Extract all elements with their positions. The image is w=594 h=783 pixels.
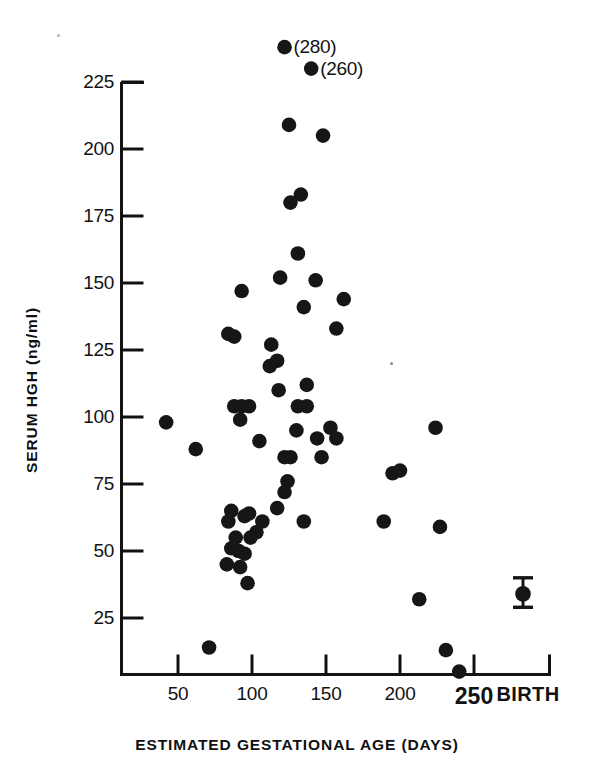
data-point: [221, 514, 236, 529]
x-tick-label-50: 50: [168, 683, 189, 705]
data-point: [227, 329, 242, 344]
y-tick-label-50: 50: [60, 540, 114, 562]
data-point: [433, 520, 448, 535]
data-point: [310, 431, 325, 446]
x-tick-label-100: 100: [237, 683, 268, 705]
data-point: [233, 412, 248, 427]
y-tick-label-25: 25: [60, 607, 114, 629]
data-point: [336, 292, 351, 307]
data-point: [202, 640, 217, 655]
y-tick-label-150: 150: [60, 272, 114, 294]
plot-canvas: [0, 0, 594, 783]
data-point: [329, 431, 344, 446]
data-point: [240, 576, 255, 591]
data-point: [297, 300, 312, 315]
data-point: [316, 128, 331, 143]
data-point-markers: [159, 40, 467, 679]
data-point: [283, 195, 298, 210]
y-tick-label-125: 125: [60, 339, 114, 361]
scan-speck: [57, 34, 60, 37]
data-point: [159, 415, 174, 430]
data-point: [299, 399, 314, 414]
data-point: [233, 560, 248, 575]
x-tick-label-birth: BIRTH: [496, 683, 559, 706]
y-tick-label-200: 200: [60, 138, 114, 160]
data-point: [291, 246, 306, 261]
axis-lines: [120, 82, 551, 676]
data-point: [220, 557, 235, 572]
x-axis-ticks: [178, 655, 550, 675]
scatter-plot-figure: 255075100125150175200225 50100150200250B…: [0, 0, 594, 783]
data-point: [234, 284, 249, 299]
data-point: [277, 40, 292, 55]
data-point: [376, 514, 391, 529]
data-point: [308, 273, 323, 288]
data-point: [452, 664, 467, 679]
data-point: [282, 118, 297, 133]
data-point: [264, 337, 279, 352]
data-point: [283, 450, 298, 465]
data-point: [273, 270, 288, 285]
data-point: [242, 506, 257, 521]
y-tick-label-175: 175: [60, 205, 114, 227]
data-point: [299, 378, 314, 393]
birth-error-bar: [513, 578, 533, 607]
data-point: [393, 463, 408, 478]
x-tick-label-200: 200: [385, 683, 416, 705]
x-tick-label-250: 250: [455, 683, 493, 710]
point-annotation-280: (280): [294, 36, 337, 58]
data-point: [270, 353, 285, 368]
data-point: [242, 399, 257, 414]
point-annotation-260: (260): [320, 58, 363, 80]
data-point: [412, 592, 427, 607]
data-point: [237, 546, 252, 561]
data-point: [271, 383, 286, 398]
y-tick-label-75: 75: [60, 473, 114, 495]
scan-speck: [390, 362, 393, 365]
data-point: [289, 423, 304, 438]
data-point: [188, 442, 203, 457]
data-point: [277, 485, 292, 500]
data-point: [314, 450, 329, 465]
data-point: [329, 321, 344, 336]
error-bar-mean-point: [515, 586, 531, 602]
y-axis-ticks: [122, 82, 144, 618]
data-point: [243, 530, 258, 545]
y-tick-label-100: 100: [60, 406, 114, 428]
data-point: [439, 643, 454, 658]
y-axis-title: SERUM HGH (ng/ml): [23, 307, 41, 473]
data-point: [297, 514, 312, 529]
data-point: [252, 434, 267, 449]
x-tick-label-150: 150: [311, 683, 342, 705]
x-axis-title: ESTIMATED GESTATIONAL AGE (DAYS): [135, 736, 459, 754]
y-tick-label-225: 225: [60, 71, 114, 93]
data-point: [270, 501, 285, 516]
data-point: [304, 61, 319, 76]
data-point: [428, 420, 443, 435]
